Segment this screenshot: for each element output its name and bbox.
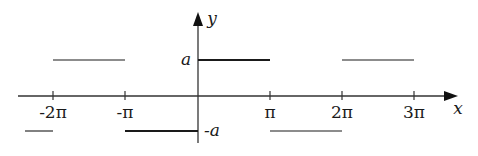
tick-label-neg-pi: -π [117, 102, 134, 122]
level-label-neg-a: -a [204, 120, 220, 140]
square-wave-diagram: -2π -π π 2π 3π x y a -a [0, 0, 478, 156]
tick-label-3pi: 3π [403, 102, 425, 122]
tick-label-neg-2pi: -2π [39, 102, 67, 122]
y-axis-label: y [206, 8, 217, 28]
tick-label-2pi: 2π [331, 102, 353, 122]
level-label-a: a [181, 49, 191, 69]
tick-label-pi: π [264, 102, 275, 122]
y-axis-arrow-icon [193, 12, 203, 26]
x-axis-label: x [453, 98, 463, 118]
